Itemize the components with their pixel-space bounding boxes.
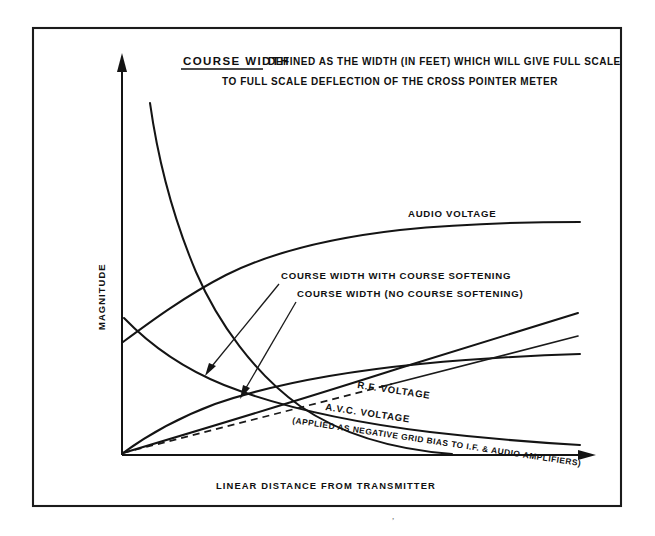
figure-page: COURSE WIDTH DEFINED AS THE WIDTH (IN FE… <box>0 0 655 536</box>
line-course-width-no-softening-dashed <box>123 384 392 453</box>
title-line-1: DEFINED AS THE WIDTH (IN FEET) WHICH WIL… <box>268 56 621 67</box>
stray-print-mark: , <box>392 511 394 521</box>
label-rf-voltage: R.F. VOLTAGE <box>357 379 431 401</box>
x-axis-label: LINEAR DISTANCE FROM TRANSMITTER <box>216 480 436 491</box>
course-width-figure: COURSE WIDTH DEFINED AS THE WIDTH (IN FE… <box>0 0 655 536</box>
curve-audio-voltage <box>123 222 580 342</box>
y-axis-label: MAGNITUDE <box>96 263 107 330</box>
leader-arrowhead-no-softening <box>240 385 250 399</box>
leader-arrowhead-with-softening <box>205 363 216 376</box>
y-axis-arrowhead <box>117 53 127 72</box>
label-audio-voltage: AUDIO VOLTAGE <box>408 208 496 219</box>
title-line-2: TO FULL SCALE DEFLECTION OF THE CROSS PO… <box>222 76 558 87</box>
label-course-width-with-softening: COURSE WIDTH WITH COURSE SOFTENING <box>281 270 511 281</box>
label-course-width-no-softening: COURSE WIDTH (NO COURSE SOFTENING) <box>297 288 523 299</box>
leader-course-width-with-softening <box>208 284 279 371</box>
